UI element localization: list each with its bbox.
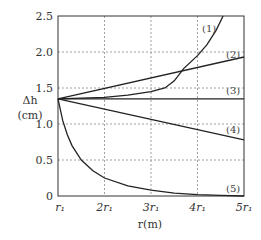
y-tick-label: 0 <box>46 190 53 203</box>
y-axis-ticks: 00.51.01.52.02.5 <box>36 10 54 203</box>
series-labels: (1)(2)(3)(4)(5) <box>202 23 240 194</box>
y-tick-label: 2.5 <box>36 10 54 23</box>
y-tick-label: 0.5 <box>36 154 54 167</box>
series-label-3: (3) <box>226 85 240 96</box>
x-tick-label: 5r₁ <box>236 201 253 214</box>
grid-lines <box>58 16 244 196</box>
line-chart: (1)(2)(3)(4)(5) 00.51.01.52.02.5 r₁2r₁3r… <box>0 0 261 240</box>
x-tick-label: 3r₁ <box>143 201 160 214</box>
series-label-4: (4) <box>226 124 240 135</box>
series-label-1: (1) <box>202 23 216 34</box>
series-line-1 <box>58 16 223 99</box>
y-tick-label: 1.5 <box>36 82 54 95</box>
y-tick-label: 2.0 <box>36 46 54 59</box>
x-axis-ticks: r₁2r₁3r₁4r₁5r₁ <box>55 201 252 214</box>
x-tick-label: 4r₁ <box>188 201 206 214</box>
series-label-5: (5) <box>226 183 240 194</box>
x-axis-label: r(m) <box>138 218 162 231</box>
y-axis-label: Δh <box>22 94 37 107</box>
x-tick-label: 2r₁ <box>95 201 113 214</box>
y-axis-unit: (cm) <box>17 109 42 122</box>
series-label-2: (2) <box>226 49 240 60</box>
x-tick-label: r₁ <box>55 201 65 214</box>
